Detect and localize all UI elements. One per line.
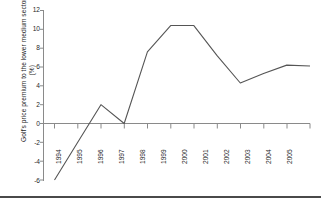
x-tick-marks xyxy=(55,124,311,129)
bottom-divider xyxy=(0,196,321,198)
y-tick-marks xyxy=(40,11,44,181)
plot-area xyxy=(0,0,321,204)
chart-figure: Golf's price premium to the lower medium… xyxy=(0,0,321,204)
data-series-line xyxy=(55,26,311,180)
